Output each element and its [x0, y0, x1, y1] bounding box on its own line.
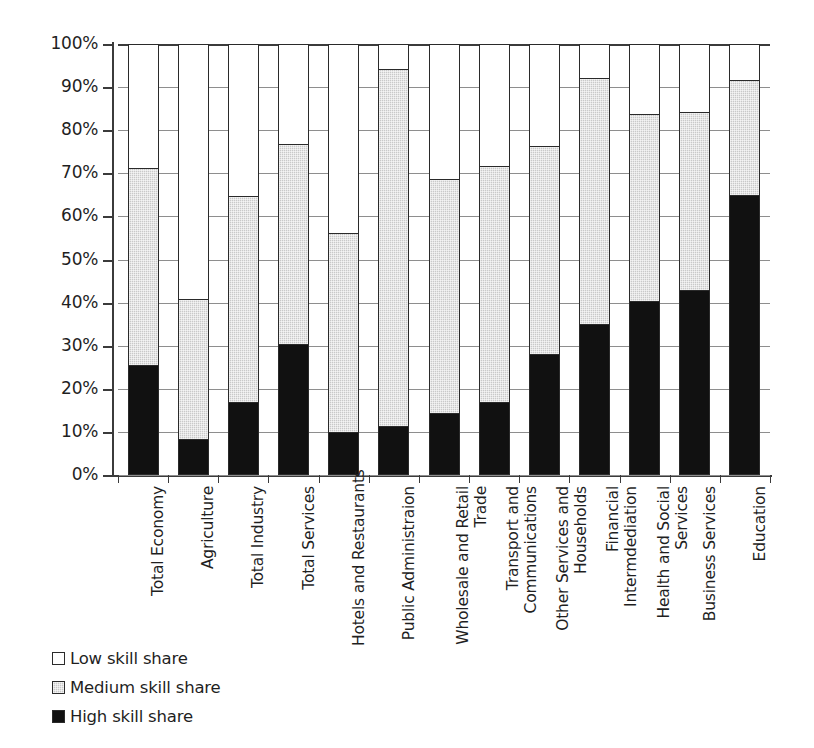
bar-transport-and-communications[interactable] [479, 44, 510, 475]
segment-low-skill [279, 45, 308, 144]
segment-low-skill [730, 45, 759, 80]
segment-low-skill [580, 45, 609, 78]
y-tick-mark [103, 346, 113, 348]
category-label: Wholesale and RetailTrade [454, 486, 490, 656]
legend-label: Low skill share [70, 650, 188, 667]
y-tick-mark [103, 87, 113, 89]
segment-high-skill [379, 427, 408, 474]
y-tick-label: 80% [38, 121, 98, 138]
segment-high-skill [430, 414, 459, 474]
y-tick-label: 90% [38, 78, 98, 95]
bar-other-services-and-households[interactable] [529, 44, 560, 475]
x-tick-mark [319, 475, 320, 483]
legend-item[interactable]: Low skill share [52, 645, 221, 671]
segment-low-skill [480, 45, 509, 166]
segment-high-skill [630, 302, 659, 474]
segment-low-skill [329, 45, 358, 233]
x-tick-mark [670, 475, 671, 483]
segment-high-skill [129, 366, 158, 474]
x-tick-mark [369, 475, 370, 483]
segment-low-skill [530, 45, 559, 146]
x-tick-mark [519, 475, 520, 483]
bar-education[interactable] [729, 44, 760, 475]
x-tick-mark [620, 475, 621, 483]
y-tick-label: 40% [38, 294, 98, 311]
y-tick-mark [103, 260, 113, 262]
bar-health-and-social-services[interactable] [629, 44, 660, 475]
legend-swatch-icon [52, 710, 65, 723]
bar-total-industry[interactable] [228, 44, 259, 475]
legend-swatch-icon [52, 652, 65, 665]
segment-low-skill [430, 45, 459, 179]
segment-medium-skill [379, 69, 408, 427]
category-label: Public Administraion [400, 486, 418, 646]
y-tick-label: 30% [38, 337, 98, 354]
category-label: FinancialIntermdediation [604, 486, 640, 656]
segment-high-skill [179, 440, 208, 474]
y-tick-mark [103, 44, 113, 46]
legend-item[interactable]: High skill share [52, 703, 221, 729]
y-tick-mark [103, 303, 113, 305]
x-tick-mark [218, 475, 219, 483]
x-tick-mark [569, 475, 570, 483]
segment-high-skill [329, 433, 358, 474]
x-tick-mark [118, 475, 119, 483]
segment-medium-skill [179, 299, 208, 439]
segment-medium-skill [730, 80, 759, 196]
category-label: Total Services [300, 486, 318, 646]
category-label: Total Economy [149, 486, 167, 646]
y-tick-mark [103, 475, 113, 477]
bar-business-services[interactable] [679, 44, 710, 475]
bar-hotels-and-restaurants[interactable] [328, 44, 359, 475]
segment-medium-skill [129, 168, 158, 366]
segment-low-skill [229, 45, 258, 196]
segment-medium-skill [329, 233, 358, 433]
category-label: Health and SocialServices [655, 486, 691, 656]
legend-label: High skill share [70, 708, 193, 725]
category-label: Hotels and Restaurants [350, 486, 368, 646]
category-label: Agriculture [199, 486, 217, 646]
bar-public-administraion[interactable] [378, 44, 409, 475]
bar-total-economy[interactable] [128, 44, 159, 475]
segment-medium-skill [580, 78, 609, 326]
category-label: Other Services andHouseholds [554, 486, 590, 656]
y-tick-mark [103, 389, 113, 391]
x-tick-mark [168, 475, 169, 483]
segment-high-skill [730, 196, 759, 474]
segment-medium-skill [480, 166, 509, 403]
bar-wholesale-and-retail-trade[interactable] [429, 44, 460, 475]
segment-high-skill [480, 403, 509, 474]
bar-agriculture[interactable] [178, 44, 209, 475]
category-label: Transport andCommunications [504, 486, 540, 656]
segment-medium-skill [630, 114, 659, 301]
y-tick-label: 20% [38, 380, 98, 397]
segment-high-skill [229, 403, 258, 474]
legend-item[interactable]: Medium skill share [52, 674, 221, 700]
bar-total-services[interactable] [278, 44, 309, 475]
segment-high-skill [279, 345, 308, 474]
segment-medium-skill [279, 144, 308, 344]
segment-low-skill [379, 45, 408, 69]
segment-medium-skill [229, 196, 258, 403]
y-tick-label: 0% [38, 466, 98, 483]
x-tick-mark [469, 475, 470, 483]
bar-financial-intermdediation[interactable] [579, 44, 610, 475]
x-tick-mark [770, 475, 771, 483]
segment-medium-skill [430, 179, 459, 414]
segment-high-skill [680, 291, 709, 474]
segment-high-skill [530, 355, 559, 474]
legend-swatch-icon [52, 681, 65, 694]
y-tick-mark [103, 173, 113, 175]
chart-legend: Low skill shareMedium skill shareHigh sk… [52, 645, 221, 732]
x-tick-mark [720, 475, 721, 483]
segment-low-skill [680, 45, 709, 112]
segment-medium-skill [680, 112, 709, 291]
gridline [118, 475, 770, 476]
category-label: Business Services [701, 486, 719, 646]
y-tick-mark [103, 432, 113, 434]
y-tick-mark [103, 130, 113, 132]
plot-area [118, 44, 770, 475]
x-tick-mark [268, 475, 269, 483]
y-tick-label: 100% [38, 35, 98, 52]
y-tick-mark [103, 216, 113, 218]
